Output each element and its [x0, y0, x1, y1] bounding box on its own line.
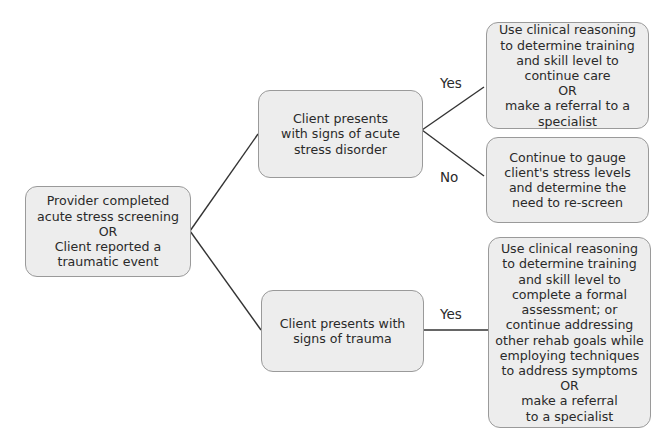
node-text: OR: [560, 378, 579, 393]
node-text: to a specialist: [526, 409, 613, 424]
node-text: need to re-screen: [512, 195, 623, 210]
node-text: continue addressing: [506, 317, 634, 332]
node-text: and determine the: [509, 180, 626, 195]
node-text: signs of trauma: [293, 331, 392, 346]
node-text: Use clinical reasoning: [499, 22, 636, 37]
node-text: make a referral: [521, 393, 617, 408]
node-text: continue care: [524, 68, 610, 83]
node-acute-yes: Use clinical reasoning to determine trai…: [486, 22, 649, 129]
node-acute-no: Continue to gauge client's stress levels…: [486, 137, 649, 223]
node-trauma: Client presents with signs of trauma: [261, 290, 424, 372]
node-text: to determine training: [502, 256, 636, 271]
node-text: OR: [558, 83, 577, 98]
node-text: to address symptoms: [502, 363, 638, 378]
node-text: client's stress levels: [504, 165, 630, 180]
node-text: other rehab goals while: [495, 333, 643, 348]
node-text: specialist: [538, 114, 597, 129]
node-text: assessment; or: [522, 302, 618, 317]
node-text: Use clinical reasoning: [501, 241, 638, 256]
node-text: and skill level to: [516, 53, 619, 68]
node-text: Client reported a: [55, 239, 161, 254]
node-text: stress disorder: [294, 142, 387, 157]
node-text: employing techniques: [500, 348, 640, 363]
node-text: Client presents with: [280, 316, 406, 331]
node-text: complete a formal: [512, 287, 627, 302]
node-trauma-yes: Use clinical reasoning to determine trai…: [488, 237, 651, 428]
node-acute-stress: Client presents with signs of acute stre…: [258, 90, 423, 178]
edge-label-acute-yes: Yes: [440, 75, 462, 91]
node-text: OR: [99, 224, 118, 239]
node-text: make a referral to a: [505, 98, 630, 113]
node-root: Provider completed acute stress screenin…: [25, 186, 191, 277]
node-text: acute stress screening: [37, 209, 179, 224]
node-text: and skill level to: [518, 272, 621, 287]
edge-label-acute-no: No: [440, 169, 458, 185]
edge-label-trauma-yes: Yes: [440, 306, 462, 322]
node-text: Client presents: [293, 111, 388, 126]
node-text: with signs of acute: [281, 126, 400, 141]
node-text: Continue to gauge: [509, 150, 626, 165]
node-text: Provider completed: [47, 193, 170, 208]
node-text: to determine training: [500, 38, 634, 53]
node-text: traumatic event: [57, 254, 158, 269]
